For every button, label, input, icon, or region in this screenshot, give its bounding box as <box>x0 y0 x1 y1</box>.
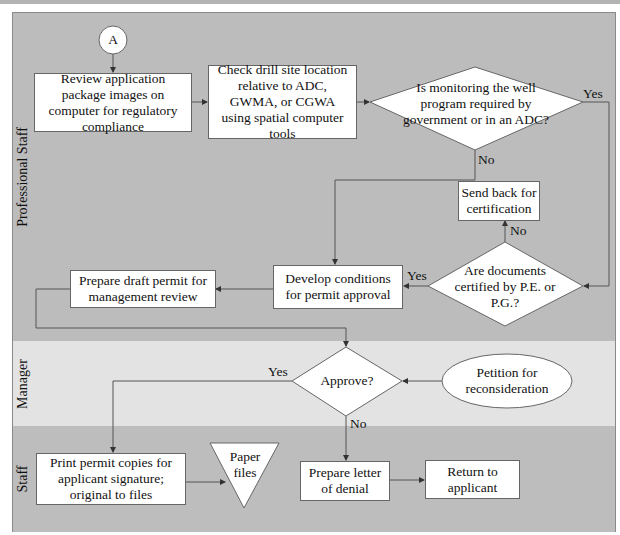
process-text: Check drill site location relative to AD… <box>215 62 350 142</box>
process-check-drill-site: Check drill site location relative to AD… <box>208 65 357 139</box>
process-text: Send back for certification <box>461 185 537 217</box>
storage-text: Paper files <box>222 449 268 481</box>
process-text: Print permit copies for applicant signat… <box>41 455 181 503</box>
process-text: Review application package images on com… <box>39 71 187 135</box>
connector-a: A <box>99 26 127 54</box>
process-print-permit: Print permit copies for applicant signat… <box>36 453 186 505</box>
process-review-application: Review application package images on com… <box>34 73 192 132</box>
decision-approve: Approve? <box>310 372 384 390</box>
edge-label-approve-yes: Yes <box>268 364 288 380</box>
process-text: Develop conditions for permit approval <box>280 271 396 303</box>
edge-approve-yes <box>113 381 292 452</box>
process-text: Prepare letter of denial <box>305 465 385 497</box>
process-text: Prepare draft permit for management revi… <box>77 273 209 305</box>
edge-label-certified-yes: Yes <box>407 268 427 284</box>
edge-label-certified-no: No <box>510 223 527 239</box>
storage-paper-files: Paper files <box>222 448 268 482</box>
edge-label-monitoring-no: No <box>478 152 495 168</box>
process-text: Return to applicant <box>430 464 515 496</box>
terminator-petition: Petition for reconsideration <box>452 364 562 398</box>
decision-monitoring: Is monitoring the well program required … <box>392 84 560 124</box>
edge-monitoring-yes <box>583 102 609 286</box>
decision-text: Approve? <box>320 373 373 389</box>
process-send-back: Send back for certification <box>458 181 540 221</box>
process-return-to-applicant: Return to applicant <box>425 460 520 499</box>
terminator-text: Petition for reconsideration <box>452 365 562 397</box>
edge-monitoring-no <box>335 150 475 264</box>
decision-text: Is monitoring the well program required … <box>392 80 560 128</box>
edge-label-monitoring-yes: Yes <box>583 86 603 102</box>
connector-a-label: A <box>108 32 118 48</box>
decision-certified: Are documents certified by P.E. or P.G.? <box>448 262 562 312</box>
edge-label-approve-no: No <box>350 416 367 432</box>
process-develop-conditions: Develop conditions for permit approval <box>273 265 403 309</box>
decision-text: Are documents certified by P.E. or P.G.? <box>448 263 562 311</box>
process-prepare-draft-permit: Prepare draft permit for management revi… <box>70 270 216 308</box>
process-prepare-denial: Prepare letter of denial <box>300 461 390 501</box>
